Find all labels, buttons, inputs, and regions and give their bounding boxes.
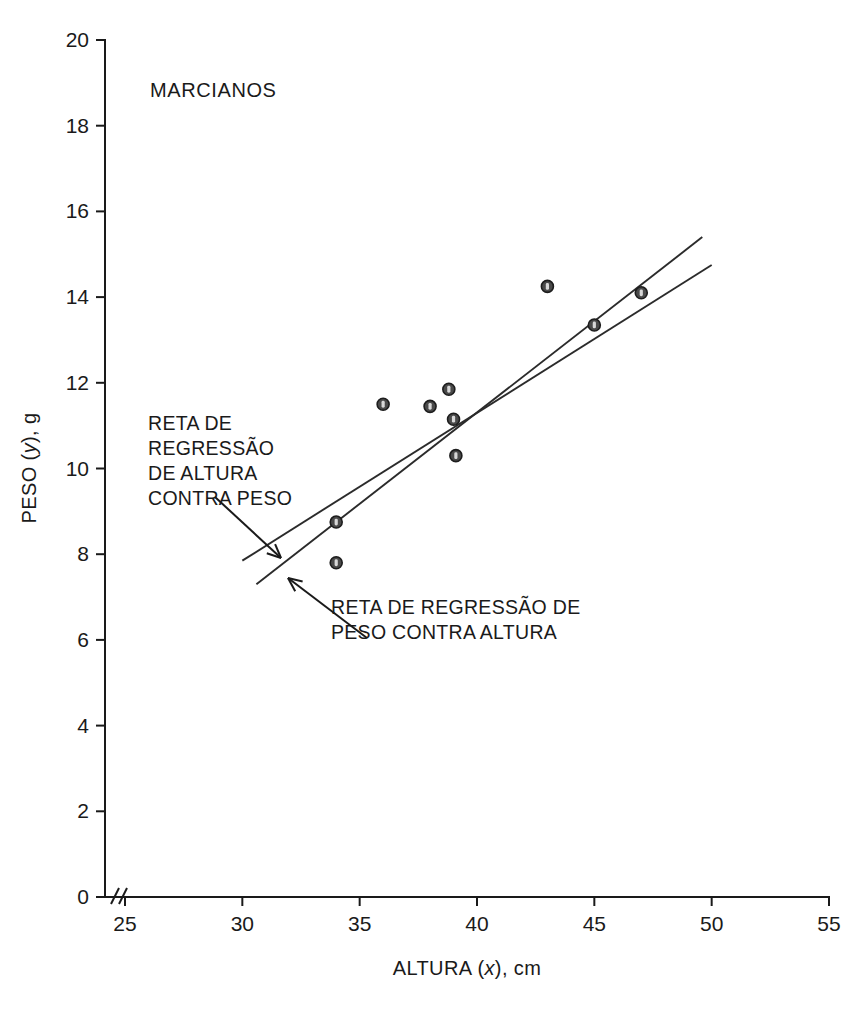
x-tick-label: 35	[348, 912, 371, 935]
marker-core	[447, 386, 450, 393]
x-tick-label: 30	[231, 912, 254, 935]
y-tick-label: 4	[77, 714, 89, 737]
data-point-marker	[588, 319, 600, 331]
marker-core	[382, 401, 385, 408]
marker-core	[452, 416, 455, 423]
y-tick-label: 0	[77, 885, 89, 908]
data-point-marker	[330, 557, 342, 569]
y-axis-title: PESO (y), g	[18, 412, 40, 523]
annotation-text-line: RETA DE	[148, 412, 232, 434]
y-tick-label: 10	[66, 457, 89, 480]
annotation-text-line: REGRESSÃO	[148, 436, 274, 459]
y-tick-label: 12	[66, 371, 89, 394]
data-point-marker	[377, 398, 389, 410]
annotation-text-line: PESO CONTRA ALTURA	[331, 621, 557, 643]
x-tick-label: 45	[583, 912, 606, 935]
annotation-text-line: DE ALTURA	[148, 462, 258, 484]
data-point-marker	[450, 450, 462, 462]
marker-core	[546, 283, 549, 290]
annotation-text-line: CONTRA PESO	[148, 487, 292, 509]
x-axis-ticks	[125, 897, 829, 906]
reta-regressao-peso-contra-altura	[242, 265, 711, 561]
marker-core	[640, 289, 643, 296]
annotation-altura-contra-peso: RETA DEREGRESSÃODE ALTURACONTRA PESO	[148, 412, 292, 558]
x-tick-label: 25	[113, 912, 136, 935]
chart-title: MARCIANOS	[150, 79, 277, 101]
data-points-group	[330, 280, 647, 568]
y-tick-label: 14	[66, 285, 90, 308]
marker-core	[454, 452, 457, 459]
marker-core	[593, 322, 596, 329]
y-tick-label: 2	[77, 799, 89, 822]
annotations-group: RETA DEREGRESSÃODE ALTURACONTRA PESORETA…	[148, 412, 580, 643]
y-tick-label: 18	[66, 114, 89, 137]
y-tick-label: 8	[77, 542, 89, 565]
data-point-marker	[330, 516, 342, 528]
scatter-plot-figure: 02468101214161820 25303540455055 MARCIAN…	[0, 0, 855, 1017]
annotation-text-line: RETA DE REGRESSÃO DE	[331, 595, 580, 618]
x-axis-tick-labels: 25303540455055	[113, 912, 840, 935]
marker-core	[335, 559, 338, 566]
annotation-peso-contra-altura: RETA DE REGRESSÃO DEPESO CONTRA ALTURA	[288, 578, 580, 643]
y-tick-label: 6	[77, 628, 89, 651]
x-tick-label: 50	[700, 912, 723, 935]
data-point-marker	[448, 413, 460, 425]
data-point-marker	[635, 287, 647, 299]
data-point-marker	[541, 280, 553, 292]
chart-page: 02468101214161820 25303540455055 MARCIAN…	[0, 0, 855, 1017]
marker-core	[428, 403, 431, 410]
x-tick-label: 55	[817, 912, 840, 935]
y-axis-tick-labels: 02468101214161820	[66, 28, 90, 908]
y-axis-ticks	[96, 40, 105, 897]
marker-core	[335, 519, 338, 526]
x-axis-title: ALTURA (x), cm	[393, 957, 542, 979]
y-tick-label: 16	[66, 199, 89, 222]
y-tick-label: 20	[66, 28, 89, 51]
x-tick-label: 40	[465, 912, 488, 935]
data-point-marker	[424, 400, 436, 412]
data-point-marker	[443, 383, 455, 395]
